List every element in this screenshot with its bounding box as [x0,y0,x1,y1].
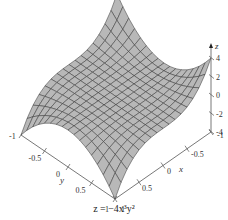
x-tick-label: 0.5 [142,184,152,193]
z-tick [209,93,214,97]
y-tick-label: 0.5 [76,186,86,195]
y-tick [66,164,70,170]
x-tick [185,146,189,152]
x-tick [161,163,165,169]
y-tick [90,180,94,186]
z-tick [209,75,214,79]
chart-caption: z = −4x³y² [0,203,228,214]
z-axis: z420-2-4 [209,41,223,137]
z-tick-label: 4 [216,54,220,63]
x-tick [137,179,141,185]
x-axis-label: x [178,164,183,174]
z-axis-arrow-icon [209,43,213,48]
x-tick-label: -0.5 [191,150,204,159]
z-tick-label: -2 [216,110,223,119]
z-tick [209,130,214,134]
y-tick-label: -0.5 [29,154,42,163]
surface-plot: -1-0.500.5-1-0.500.511xy z420-2-4 [0,0,228,220]
z-tick-label: 0 [216,91,220,100]
z-tick-label: 2 [216,73,220,82]
y-axis-label: y [59,175,64,185]
x-tick-label: 0 [167,167,171,176]
y-tick [43,148,47,154]
y-tick-label: -1 [9,132,16,141]
z-tick-label: -4 [216,128,223,137]
z-axis-label: z [214,41,219,51]
z-tick [209,112,214,116]
